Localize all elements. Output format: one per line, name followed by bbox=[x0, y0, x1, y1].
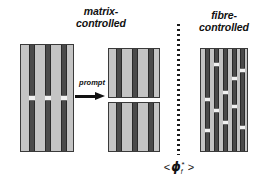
vertical-dotted-divider-icon bbox=[177, 24, 180, 155]
arrow-shaft bbox=[75, 95, 96, 98]
critical-volume-fraction-label: <ϕf* > bbox=[152, 157, 206, 177]
composite-block bbox=[108, 102, 160, 152]
fibre-break bbox=[232, 104, 237, 109]
composite-block bbox=[108, 48, 160, 98]
arrow-head bbox=[95, 92, 105, 100]
phi-symbol: ϕ bbox=[170, 160, 182, 174]
fibre-break bbox=[232, 76, 237, 81]
fibre-stripe bbox=[148, 103, 154, 151]
fibre-stripe bbox=[116, 103, 122, 151]
fibre-break bbox=[223, 120, 228, 125]
angle-bracket-right: > bbox=[188, 161, 194, 173]
composite-failure-diagram: matrix- controlled fibre- controlled pro… bbox=[0, 0, 268, 178]
fibre-stripe bbox=[148, 49, 154, 97]
fibre-stripe bbox=[132, 103, 138, 151]
fibre-stripe bbox=[116, 49, 122, 97]
fibre-break bbox=[240, 68, 245, 73]
right-arrow-icon bbox=[75, 92, 106, 101]
fibre-break bbox=[240, 125, 245, 130]
fibre-stripe bbox=[240, 49, 245, 151]
fibre-controlled-caption: fibre- controlled bbox=[182, 10, 266, 33]
fibre-break bbox=[214, 108, 219, 113]
fibre-break bbox=[223, 90, 228, 95]
composite-block bbox=[200, 48, 248, 152]
fibre-break bbox=[205, 128, 210, 133]
composite-block bbox=[20, 44, 74, 152]
fibre-stripe bbox=[132, 49, 138, 97]
fibre-break bbox=[61, 95, 67, 101]
fibre-break bbox=[29, 95, 35, 101]
matrix-controlled-caption: matrix- controlled bbox=[55, 6, 147, 29]
fibre-break bbox=[205, 97, 210, 102]
prompt-label: prompt bbox=[74, 78, 110, 87]
fibre-stripe bbox=[223, 49, 228, 151]
fibre-break bbox=[214, 62, 219, 67]
fibre-stripe bbox=[232, 49, 237, 151]
prompt-arrow-group: prompt bbox=[74, 78, 108, 104]
fibre-break bbox=[45, 95, 51, 101]
phi-superscript: * bbox=[182, 160, 185, 169]
